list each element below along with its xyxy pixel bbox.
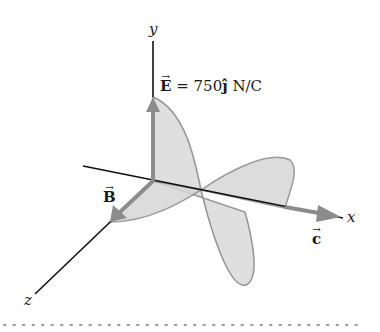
- c-vector-label: → c: [312, 231, 321, 247]
- electric-field-equation: → E = 750ĵ N/C: [160, 78, 262, 94]
- vector-arrow-icon: →: [312, 225, 320, 235]
- vector-arrow-icon: →: [105, 183, 113, 193]
- diagram-canvas: [0, 0, 380, 332]
- c-vector-arrow: [285, 205, 341, 222]
- equation-units: N/C: [228, 77, 262, 95]
- em-wave-diagram: y x z → E = 750ĵ N/C → B → c: [0, 0, 380, 332]
- vector-arrow-icon: →: [162, 72, 170, 82]
- e-vector-symbol: → E: [160, 79, 171, 94]
- z-axis-label: z: [24, 293, 32, 308]
- x-axis-label: x: [347, 210, 355, 225]
- y-axis-label: y: [149, 22, 157, 37]
- equation-value: = 750: [171, 77, 222, 95]
- b-vector-label: → B: [103, 189, 116, 205]
